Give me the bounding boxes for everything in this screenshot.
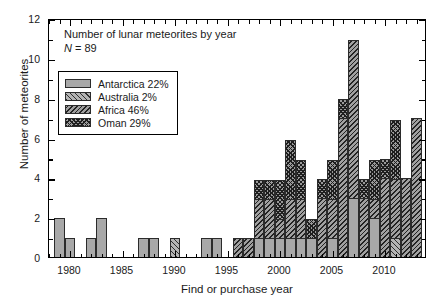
x-tick-label-1985: 1985	[110, 264, 133, 276]
bar-segment-oman-1999	[264, 180, 275, 200]
x-tick-1984	[112, 254, 113, 258]
x-tick-1998	[259, 254, 260, 258]
x-tick-top-1988	[154, 20, 155, 24]
x-tick-top-1990	[175, 20, 176, 26]
y-tick-right-12	[419, 20, 425, 21]
legend-item-antarctica: Antarctica 22%	[65, 77, 169, 90]
y-tick-label-8: 8	[14, 93, 40, 105]
x-tick-2002	[301, 254, 302, 258]
bar-segment-africa-2007	[348, 40, 359, 199]
x-tick-1996	[238, 254, 239, 258]
y-tick-3	[49, 199, 53, 200]
x-tick-1993	[207, 254, 208, 258]
legend-label-australia: Australia 2%	[98, 91, 157, 103]
bar-segment-antarctica-2009	[369, 218, 380, 258]
y-tick-right-3	[422, 199, 426, 200]
x-tick-1995	[228, 251, 229, 257]
y-tick-11	[49, 40, 53, 41]
x-tick-top-2001	[291, 20, 292, 24]
bar-segment-africa-2012	[401, 178, 412, 258]
x-tick-2013	[417, 254, 418, 258]
x-tick-1985	[123, 251, 124, 257]
x-tick-1981	[81, 254, 82, 258]
y-tick-right-1	[422, 239, 426, 240]
x-tick-top-1983	[102, 20, 103, 24]
x-tick-top-1985	[123, 20, 124, 26]
bar-segment-antarctica-1979	[54, 218, 65, 258]
y-tick-label-0: 0	[14, 252, 40, 264]
x-tick-top-2012	[406, 20, 407, 24]
x-tick-top-1987	[144, 20, 145, 24]
x-tick-1997	[249, 254, 250, 258]
x-tick-top-2006	[343, 20, 344, 24]
x-tick-1979	[60, 254, 61, 258]
bar-2007	[348, 38, 359, 257]
x-tick-2011	[396, 254, 397, 258]
bar-segment-oman-2006	[338, 99, 349, 119]
x-tick-top-2003	[312, 20, 313, 24]
x-tick-2007	[354, 254, 355, 258]
x-tick-1986	[133, 254, 134, 258]
y-tick-label-6: 6	[14, 133, 40, 145]
x-tick-top-2013	[417, 20, 418, 24]
bar-segment-oman-2005	[327, 160, 338, 200]
x-tick-1989	[165, 254, 166, 258]
x-tick-1990	[175, 251, 176, 257]
bar-segment-oman-2009	[369, 160, 380, 200]
bar-segment-africa-2001	[285, 199, 296, 239]
x-tick-label-2000: 2000	[267, 264, 290, 276]
bar-2005	[327, 157, 338, 257]
bar-2009	[369, 157, 380, 257]
bar-2003	[306, 217, 317, 257]
legend-swatch-oman	[65, 118, 91, 127]
bar-segment-antarctica-1983	[96, 218, 107, 258]
x-tick-top-1979	[60, 20, 61, 24]
x-tick-top-1997	[249, 20, 250, 24]
bar-2008	[359, 177, 370, 257]
bar-2012	[401, 177, 412, 257]
bar-segment-africa-1999	[264, 199, 275, 239]
x-tick-2012	[406, 254, 407, 258]
bar-2002	[296, 157, 307, 257]
legend-label-oman: Oman 29%	[98, 117, 151, 129]
y-tick-right-8	[419, 100, 425, 101]
legend-swatch-australia	[65, 92, 91, 101]
bar-segment-africa-2000	[275, 219, 286, 239]
x-tick-top-2008	[364, 20, 365, 24]
legend-label-africa: Africa 46%	[98, 104, 149, 116]
x-tick-top-1989	[165, 20, 166, 24]
bar-2004	[317, 177, 328, 257]
y-tick-9	[49, 80, 53, 81]
x-tick-top-1998	[259, 20, 260, 24]
x-tick-top-1991	[186, 20, 187, 24]
bar-segment-oman-2008	[359, 179, 370, 199]
x-axis-title: Find or purchase year	[48, 283, 426, 295]
x-tick-top-1993	[207, 20, 208, 24]
x-tick-2010	[385, 251, 386, 257]
x-tick-top-1984	[112, 20, 113, 24]
y-tick-right-10	[419, 60, 425, 61]
bar-segment-africa-1998	[254, 199, 265, 239]
x-tick-1980	[70, 251, 71, 257]
bar-segment-africa-2004	[317, 198, 328, 258]
legend-label-antarctica: Antarctica 22%	[98, 78, 169, 90]
x-tick-top-1999	[270, 20, 271, 24]
y-tick-8	[49, 100, 55, 101]
y-tick-5	[49, 159, 53, 160]
x-tick-1987	[144, 254, 145, 258]
y-tick-right-11	[422, 40, 426, 41]
x-tick-2001	[291, 254, 292, 258]
x-tick-label-1995: 1995	[215, 264, 238, 276]
x-tick-1988	[154, 254, 155, 258]
figure-canvas: Number of meteorites 024681012 198019851…	[0, 0, 446, 305]
bar-segment-africa-2006	[338, 118, 349, 257]
x-tick-label-2005: 2005	[320, 264, 343, 276]
y-tick-right-5	[422, 159, 426, 160]
x-tick-2008	[364, 254, 365, 258]
x-tick-2009	[375, 254, 376, 258]
bar-2013	[411, 118, 422, 257]
x-tick-2000	[280, 251, 281, 257]
x-tick-top-1994	[217, 20, 218, 24]
x-tick-1978	[49, 254, 50, 258]
bar-segment-africa-2002	[296, 199, 307, 239]
